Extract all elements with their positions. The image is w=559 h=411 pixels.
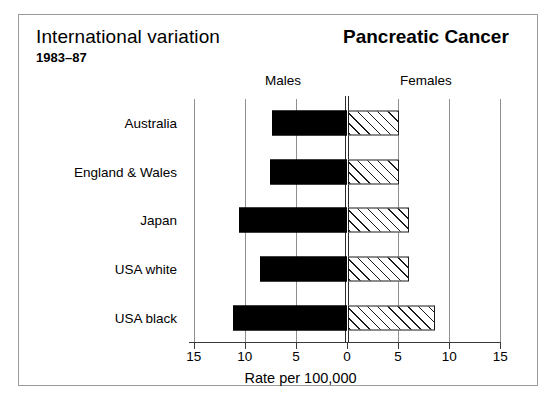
legend-label-females: Females (400, 73, 452, 88)
bar-females (348, 257, 409, 282)
chart-row: USA black (189, 293, 501, 342)
x-axis-tick-label: 15 (493, 349, 508, 364)
chart-canvas: International variation 1983–87 Pancreat… (0, 0, 559, 411)
figure-subtitle-left: 1983–87 (36, 50, 87, 65)
chart-row: England & Wales (189, 148, 501, 197)
x-axis-tick (347, 342, 348, 349)
x-axis-tick-label: 15 (186, 349, 201, 364)
bar-males (260, 257, 347, 282)
x-axis-tick-label: 10 (237, 349, 252, 364)
bar-females (348, 208, 409, 233)
category-label: USA black (115, 310, 177, 325)
x-axis-tick-label: 5 (292, 349, 300, 364)
category-label: USA white (115, 262, 177, 277)
bar-females (348, 159, 399, 184)
bar-males (272, 111, 347, 136)
category-label: England & Wales (74, 164, 177, 179)
bar-males (270, 159, 347, 184)
chart-row: Japan (189, 196, 501, 245)
x-axis-tick (296, 342, 297, 349)
category-label: Japan (140, 213, 177, 228)
chart-row: Australia (189, 99, 501, 148)
bar-males (239, 208, 347, 233)
x-axis-tick (194, 342, 195, 349)
x-axis-tick (245, 342, 246, 349)
figure-title-right: Pancreatic Cancer (343, 26, 509, 48)
category-label: Australia (124, 116, 177, 131)
x-axis-tick-label: 10 (442, 349, 457, 364)
bar-females (348, 305, 435, 330)
x-axis-tick (449, 342, 450, 349)
bar-males (233, 305, 347, 330)
x-axis-line (189, 342, 501, 343)
figure-title-left: International variation (36, 26, 220, 48)
bar-females (348, 111, 399, 136)
x-axis-caption: Rate per 100,000 (0, 370, 559, 386)
legend-label-males: Males (265, 73, 301, 88)
x-axis-tick (500, 342, 501, 349)
x-axis-caption-text: Rate per 100,000 (244, 370, 356, 386)
x-axis-tick (398, 342, 399, 349)
plot-area: AustraliaEngland & WalesJapanUSA whiteUS… (189, 99, 501, 342)
x-axis-tick-label: 5 (394, 349, 402, 364)
x-axis-tick-label: 0 (343, 349, 351, 364)
chart-row: USA white (189, 245, 501, 294)
